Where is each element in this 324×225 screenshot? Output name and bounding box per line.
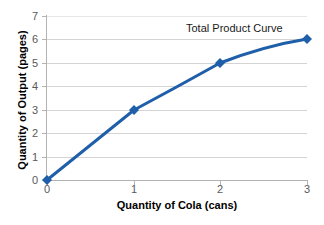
y-axis-title: Quantity of Output (pages) — [16, 10, 28, 190]
x-axis-title: Quantity of Cola (cans) — [47, 199, 307, 211]
data-point-3 — [302, 34, 312, 44]
series-annotation-label: Total Product Curve — [186, 22, 283, 34]
series-line — [47, 39, 307, 180]
series-markers — [42, 34, 312, 185]
total-product-curve-chart: 7 6 5 4 3 2 1 0 0 1 2 3 Total Product Cu… — [0, 0, 324, 225]
